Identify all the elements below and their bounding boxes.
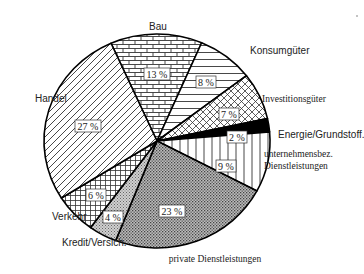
percent-label: 23 % [162, 206, 183, 217]
percent-label: 27 % [78, 121, 99, 132]
percent-label: 13 % [147, 69, 168, 80]
category-label: Handel [35, 93, 67, 104]
percent-label: 8 % [198, 77, 214, 88]
category-label: Investitionsgüter [262, 94, 327, 104]
percent-label: 4 % [105, 212, 121, 223]
category-label: Kredit/Versich. [62, 237, 126, 248]
percent-label: 6 % [88, 190, 104, 201]
category-label: Bau [149, 21, 167, 32]
percent-label: 9 % [218, 161, 234, 172]
percent-label: 7 % [221, 109, 237, 120]
category-label: private Dienstleistungen [169, 254, 262, 264]
category-label: unternehmensbez.Dienstleistungen [264, 149, 333, 171]
speck [356, 15, 358, 17]
pie-chart: 13 %8 %7 %2 %9 %23 %4 %6 %27 % BauKonsum… [0, 0, 364, 274]
category-label: Konsumgüter [250, 45, 310, 56]
category-label: Energie/Grundstoff. [278, 129, 364, 140]
percent-label: 2 % [229, 132, 245, 143]
category-label: Verkehr [52, 211, 87, 222]
